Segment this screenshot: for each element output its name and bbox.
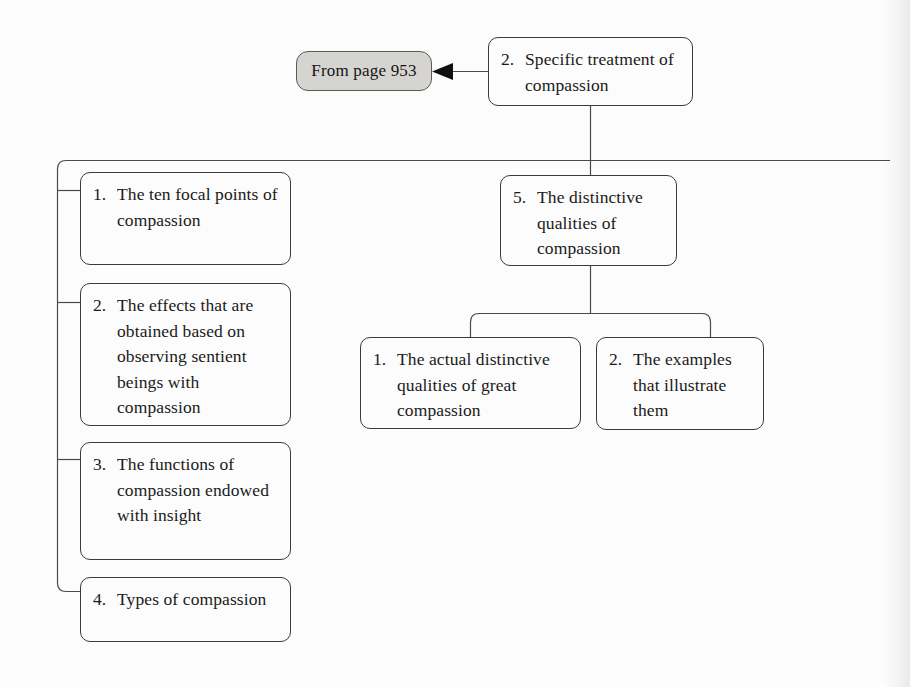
diagram-canvas: From page 953 2. Specific treatment of c… [0, 0, 910, 687]
node-left-1-ten-focal-points[interactable]: 1. The ten focal points of compassion [80, 172, 291, 265]
node-left-2-effects-obtained[interactable]: 2. The effects that are obtained based o… [80, 283, 291, 426]
node-text: The examples that illustrate them [633, 347, 753, 424]
node-text: The distinctive qualities of compassion [537, 185, 666, 262]
connector-r5-children-bar [471, 314, 711, 338]
node-left-3-functions-of-compassion[interactable]: 3. The functions of compassion endowed w… [80, 442, 291, 560]
connector-spine-to-l4 [58, 583, 81, 592]
node-text: Types of compassion [117, 587, 280, 613]
node-text: The functions of compassion endowed with… [117, 452, 280, 529]
node-root-specific-treatment[interactable]: 2. Specific treatment of compassion [488, 37, 693, 106]
node-right-5-distinctive-qualities[interactable]: 5. The distinctive qualities of compassi… [500, 175, 677, 266]
reference-label: From page 953 [311, 61, 417, 81]
node-right-5-child-1-actual-qualities[interactable]: 1. The actual distinctive qualities of g… [360, 337, 581, 429]
node-text: Specific treatment of compassion [525, 47, 682, 98]
node-number: 4. [93, 587, 117, 613]
node-number: 3. [93, 452, 117, 478]
node-number: 2. [93, 293, 117, 319]
node-text: The effects that are obtained based on o… [117, 293, 280, 421]
node-number: 5. [513, 185, 537, 211]
node-number: 1. [93, 182, 117, 208]
node-number: 1. [373, 347, 397, 373]
node-number: 2. [501, 47, 525, 73]
arrow-left-icon [432, 63, 488, 80]
node-number: 2. [609, 347, 633, 373]
node-left-4-types-of-compassion[interactable]: 4. Types of compassion [80, 577, 291, 642]
node-right-5-child-2-examples[interactable]: 2. The examples that illustrate them [596, 337, 764, 430]
reference-from-page[interactable]: From page 953 [296, 51, 432, 91]
node-text: The ten focal points of compassion [117, 182, 280, 233]
node-text: The actual distinctive qualities of grea… [397, 347, 570, 424]
